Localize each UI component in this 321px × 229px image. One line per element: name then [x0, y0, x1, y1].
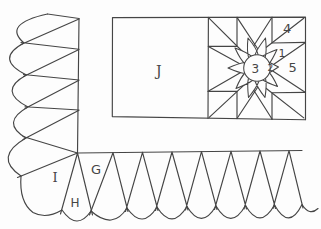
pattern-sketch-page: J 4 1 5 2 3 I G H [0, 0, 321, 229]
label-piece-5: 5 [289, 60, 297, 75]
left-border-inner-edge-line [78, 19, 80, 154]
bottom-border-inner-edge-line [78, 151, 303, 154]
bottom-border-scallop-arcs [91, 205, 318, 221]
label-border-h: H [71, 196, 80, 210]
left-border-scallop-arcs [8, 14, 47, 176]
label-piece-2: 2 [268, 63, 274, 73]
label-square-j: J [154, 63, 162, 79]
quilt-pattern-diagram: J 4 1 5 2 3 I G H [0, 0, 321, 229]
label-border-i: I [53, 170, 58, 185]
label-piece-3: 3 [252, 62, 260, 76]
left-scallop-border [8, 14, 79, 176]
left-border-zigzag-lines [21, 19, 79, 153]
label-piece-1: 1 [279, 47, 286, 60]
left-border-top-edge-line [48, 14, 80, 19]
bottom-scallop-border [78, 151, 319, 221]
bottom-border-cone-lines [90, 151, 304, 215]
border-corner-fan [18, 153, 93, 221]
label-piece-4: 4 [283, 21, 291, 36]
label-border-g: G [91, 162, 101, 177]
